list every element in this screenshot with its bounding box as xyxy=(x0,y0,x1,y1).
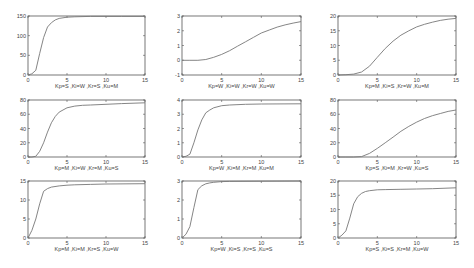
y-tick-label: 0 xyxy=(333,72,336,78)
y-tick-label: 2 xyxy=(177,197,180,203)
x-axis-label: Kp=W ,Ki=M ,Kr=M ,Ku=M xyxy=(209,165,274,171)
x-tick-label: 15 xyxy=(142,240,148,246)
y-tick-label: 50 xyxy=(20,52,26,58)
y-tick-label: 1 xyxy=(177,43,180,49)
y-tick-label: 1 xyxy=(177,140,180,146)
x-tick-label: 15 xyxy=(453,77,459,83)
y-tick-label: 10 xyxy=(330,207,336,213)
y-tick-label: 15 xyxy=(330,28,336,34)
y-tick-label: 80 xyxy=(330,97,336,103)
subplot-4: 051015020406080Kp=M ,Ki=W ,Kr=M ,Ku=S xyxy=(20,97,148,171)
y-tick-label: 3 xyxy=(177,111,180,117)
y-tick-label: 0 xyxy=(23,72,26,78)
y-tick-label: 0 xyxy=(23,154,26,160)
y-tick-label: 3 xyxy=(177,178,180,184)
x-axis-label: Kp=S ,Ki=W ,Kr=S ,Ku=M xyxy=(55,83,118,89)
y-tick-label: 60 xyxy=(330,111,336,117)
chart-grid: 051015050100150Kp=S ,Ki=W ,Kr=S ,Ku=M051… xyxy=(0,0,474,268)
axes-frame xyxy=(28,100,145,157)
y-tick-label: 100 xyxy=(17,33,26,39)
axes-frame xyxy=(182,16,301,75)
x-axis-label: Kp=M ,Ki=S ,Kr=W ,Ku=M xyxy=(365,83,429,89)
response-curve xyxy=(338,110,456,157)
axes-frame xyxy=(182,100,301,157)
axes-frame xyxy=(182,181,301,238)
x-axis-label: Kp=S ,Ki=S ,Kr=M ,Ku=W xyxy=(366,246,430,252)
y-tick-label: 15 xyxy=(20,178,26,184)
y-tick-label: 5 xyxy=(333,221,336,227)
y-tick-label: 0 xyxy=(177,235,180,241)
x-tick-label: 0 xyxy=(180,240,183,246)
y-tick-label: 2 xyxy=(177,126,180,132)
response-curve xyxy=(28,184,145,238)
x-tick-label: 15 xyxy=(142,159,148,165)
response-curve xyxy=(182,181,301,238)
subplot-1: 051015050100150Kp=S ,Ki=W ,Kr=S ,Ku=M xyxy=(17,13,148,89)
y-tick-label: 40 xyxy=(20,126,26,132)
x-tick-label: 0 xyxy=(180,77,183,83)
subplot-7: 051015051015Kp=M ,Ki=M ,Kr=S ,Ku=W xyxy=(20,178,148,252)
y-tick-label: 5 xyxy=(333,57,336,63)
y-tick-label: 20 xyxy=(330,13,336,19)
y-tick-label: 10 xyxy=(330,43,336,49)
y-tick-label: 0 xyxy=(177,154,180,160)
axes-frame xyxy=(338,16,456,75)
y-tick-label: 2 xyxy=(177,28,180,34)
subplot-5: 05101501234Kp=W ,Ki=M ,Kr=M ,Ku=M xyxy=(177,97,304,171)
axes-frame xyxy=(338,100,456,157)
y-tick-label: 150 xyxy=(17,13,26,19)
x-tick-label: 0 xyxy=(180,159,183,165)
y-tick-label: 20 xyxy=(330,178,336,184)
x-tick-label: 15 xyxy=(453,240,459,246)
x-tick-label: 15 xyxy=(298,77,304,83)
subplot-3: 05101505101520Kp=M ,Ki=S ,Kr=W ,Ku=M xyxy=(330,13,459,89)
y-tick-label: 3 xyxy=(177,13,180,19)
y-tick-label: 80 xyxy=(20,97,26,103)
x-tick-label: 0 xyxy=(26,159,29,165)
subplot-2: 051015-10123Kp=W ,Ki=W ,Kr=W ,Ku=W xyxy=(175,13,304,89)
x-axis-label: Kp=M ,Ki=M ,Kr=S ,Ku=W xyxy=(55,246,120,252)
x-tick-label: 15 xyxy=(142,77,148,83)
x-axis-label: Kp=S ,Ki=M ,Kr=W ,Ku=S xyxy=(366,165,429,171)
response-curve xyxy=(338,188,456,238)
x-tick-label: 15 xyxy=(298,240,304,246)
y-tick-label: 5 xyxy=(23,216,26,222)
subplot-9: 05101505101520Kp=S ,Ki=S ,Kr=M ,Ku=W xyxy=(330,178,459,252)
axes-frame xyxy=(28,16,145,75)
y-tick-label: 0 xyxy=(333,235,336,241)
y-tick-label: -1 xyxy=(175,72,180,78)
response-curve xyxy=(182,104,301,157)
y-tick-label: 0 xyxy=(177,57,180,63)
y-tick-label: 20 xyxy=(20,140,26,146)
response-curve xyxy=(28,16,145,75)
x-tick-label: 0 xyxy=(336,159,339,165)
y-tick-label: 20 xyxy=(330,140,336,146)
response-curve xyxy=(338,18,456,75)
subplot-8: 0510150123Kp=W ,Ki=S ,Kr=S ,Ku=S xyxy=(177,178,304,252)
x-axis-label: Kp=W ,Ki=S ,Kr=S ,Ku=S xyxy=(210,246,272,252)
x-axis-label: Kp=M ,Ki=W ,Kr=M ,Ku=S xyxy=(55,165,119,171)
y-tick-label: 0 xyxy=(333,154,336,160)
y-tick-label: 4 xyxy=(177,97,180,103)
y-tick-label: 0 xyxy=(23,235,26,241)
x-tick-label: 15 xyxy=(453,159,459,165)
x-tick-label: 0 xyxy=(336,77,339,83)
x-tick-label: 0 xyxy=(26,240,29,246)
response-curve xyxy=(182,22,301,61)
x-tick-label: 0 xyxy=(336,240,339,246)
x-tick-label: 0 xyxy=(26,77,29,83)
response-curve xyxy=(28,103,145,157)
y-tick-label: 60 xyxy=(20,111,26,117)
x-tick-label: 15 xyxy=(298,159,304,165)
y-tick-label: 10 xyxy=(20,197,26,203)
subplot-6: 051015020406080Kp=S ,Ki=M ,Kr=W ,Ku=S xyxy=(330,97,459,171)
x-axis-label: Kp=W ,Ki=W ,Kr=W ,Ku=W xyxy=(208,83,275,89)
y-tick-label: 15 xyxy=(330,192,336,198)
y-tick-label: 40 xyxy=(330,126,336,132)
y-tick-label: 1 xyxy=(177,216,180,222)
